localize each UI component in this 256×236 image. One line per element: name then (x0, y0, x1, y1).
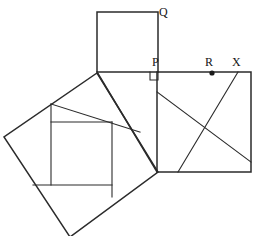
diagonal-from-left-edge (157, 92, 251, 162)
vertex-label-P: P (152, 56, 159, 68)
square-on-vertical-leg (97, 12, 158, 72)
tilted-square-on-horizontal-leg (4, 73, 158, 236)
marked-point-R (209, 70, 214, 75)
diagonal-from-X (178, 72, 238, 172)
inner-top-edge-ray (51, 104, 140, 132)
square-on-hypotenuse (157, 72, 251, 172)
geometry-figure: Q P R X (0, 0, 256, 236)
vertex-label-Q: Q (159, 6, 168, 18)
figure-canvas (0, 0, 256, 236)
vertex-label-R: R (205, 56, 213, 68)
vertex-label-X: X (232, 56, 241, 68)
